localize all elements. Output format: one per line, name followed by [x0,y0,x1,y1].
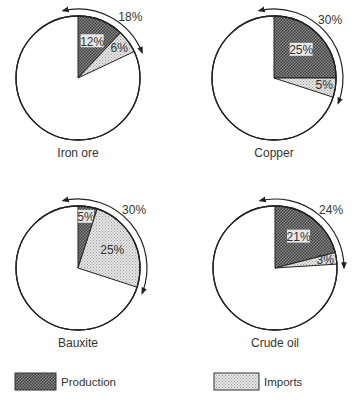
pie-chart-figure: 12%6%18%Iron ore25%5%30%Copper5%25%30%Ba… [0,0,359,402]
total-label: 18% [118,10,142,24]
total-label: 30% [122,203,146,217]
legend-swatch-production [15,373,56,390]
pie-title: Bauxite [58,336,98,350]
legend-label-imports: Imports [264,376,303,388]
pie-crude-oil: 21%3%24%Crude oil [213,199,344,350]
slice-label-production: 25% [289,43,313,57]
slice-label-imports: 6% [110,41,128,55]
legend-swatch-imports [214,373,259,390]
slice-label-production: 21% [287,230,311,244]
pie-iron-ore: 12%6%18%Iron ore [16,9,143,160]
total-label: 30% [318,13,342,27]
slice-label-imports: 5% [316,78,334,92]
slice-label-production: 5% [77,210,95,224]
slice-label-imports: 3% [317,253,335,267]
pie-title: Iron ore [57,146,99,160]
pie-copper: 25%5%30%Copper [212,9,343,160]
total-label: 24% [319,203,343,217]
legend: Production Imports [15,373,303,390]
pie-bauxite: 5%25%30%Bauxite [16,199,147,350]
slice-label-imports: 25% [100,243,124,257]
slice-label-production: 12% [80,35,104,49]
pie-title: Copper [254,146,293,160]
pie-title: Crude oil [251,336,299,350]
legend-label-production: Production [61,376,116,388]
